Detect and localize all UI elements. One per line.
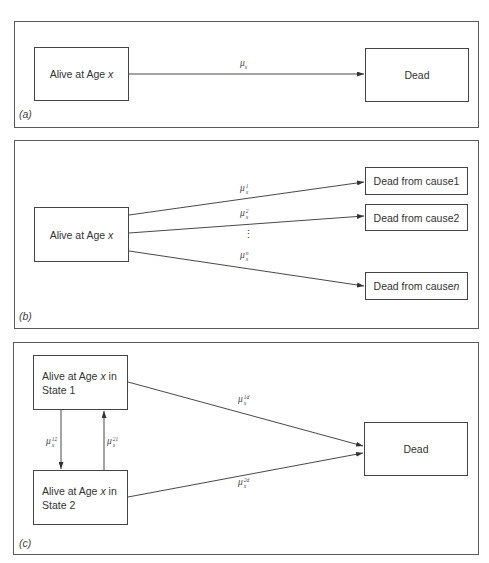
arrow-c-2-to-dead [128, 453, 363, 497]
arrow-c-1-to-dead [128, 382, 363, 446]
arrow-b-cause1 [129, 182, 364, 215]
arrow-b-causen [129, 251, 364, 286]
arrows-layer [0, 0, 489, 563]
arrow-b-cause2 [129, 216, 364, 233]
